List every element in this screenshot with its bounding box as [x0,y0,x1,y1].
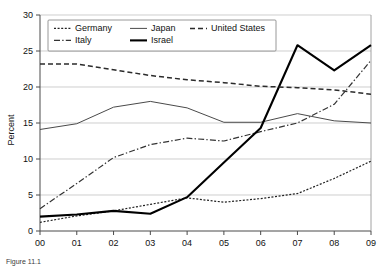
chart-container: 051015202530 00010203040506070809 German… [0,0,386,268]
line-chart: 051015202530 00010203040506070809 German… [0,0,386,268]
y-tick-label: 0 [28,226,33,236]
y-tick-label: 5 [28,190,33,200]
y-tick-label: 25 [23,46,33,56]
y-axis: 051015202530 [23,10,40,236]
x-tick-label: 07 [292,238,302,248]
x-tick-label: 01 [72,238,82,248]
x-tick-label: 09 [366,238,376,248]
legend-label-israel: Israel [151,35,173,45]
x-axis: 00010203040506070809 [35,231,376,248]
legend-label-italy: Italy [75,35,92,45]
x-tick-label: 08 [329,238,339,248]
series-lines [40,45,371,222]
figure-caption: Figure 11.1 [6,258,41,266]
series-line-japan [40,101,371,129]
y-tick-label: 15 [23,118,33,128]
x-tick-label: 05 [219,238,229,248]
y-tick-label: 20 [23,82,33,92]
y-tick-label: 30 [23,10,33,20]
x-tick-label: 06 [256,238,266,248]
x-tick-label: 00 [35,238,45,248]
series-line-italy [40,60,371,208]
legend-label-united-states: United States [211,23,266,33]
legend-label-japan: Japan [151,23,176,33]
series-line-united-states [40,64,371,94]
chart-legend: GermanyJapanUnited StatesItalyIsrael [48,20,276,51]
series-line-israel [40,45,371,216]
y-tick-label: 10 [23,154,33,164]
x-tick-label: 04 [182,238,192,248]
x-tick-label: 02 [109,238,119,248]
x-tick-label: 03 [145,238,155,248]
y-axis-title: Percent [6,114,16,146]
legend-label-germany: Germany [75,23,113,33]
